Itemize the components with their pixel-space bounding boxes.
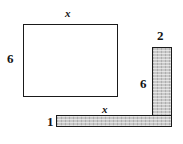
label-horizontal-bar-top: x xyxy=(102,104,108,115)
bar-junction-fill xyxy=(153,116,170,125)
label-horizontal-bar-left: 1 xyxy=(47,115,54,128)
geometry-figure: x 6 2 6 x 1 xyxy=(0,0,183,144)
open-rectangle xyxy=(23,24,118,97)
label-vertical-bar-left: 6 xyxy=(140,77,147,90)
label-vertical-bar-top: 2 xyxy=(157,29,164,42)
label-rectangle-left: 6 xyxy=(7,52,14,65)
label-rectangle-top: x xyxy=(65,8,71,19)
